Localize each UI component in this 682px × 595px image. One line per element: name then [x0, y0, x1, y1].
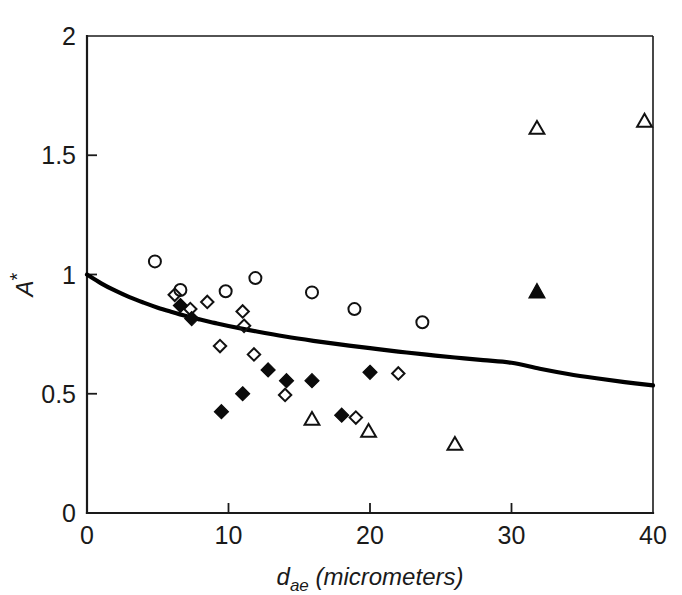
x-tick-label-30: 30 [498, 521, 526, 549]
y-tick-label-0.5: 0.5 [41, 380, 76, 408]
x-tick-label-20: 20 [356, 521, 384, 549]
y-tick-label-0: 0 [62, 499, 76, 527]
x-tick-label-0: 0 [80, 521, 94, 549]
chart-background [0, 0, 682, 595]
y-tick-label-2: 2 [62, 22, 76, 50]
chart-figure: 010203040 00.511.52 dae (micrometers) A* [0, 0, 682, 595]
y-tick-label-1: 1 [62, 261, 76, 289]
scatter-plot-svg: 010203040 00.511.52 dae (micrometers) A* [0, 0, 682, 595]
y-tick-label-1.5: 1.5 [41, 141, 76, 169]
x-tick-label-40: 40 [639, 521, 667, 549]
x-tick-label-10: 10 [215, 521, 243, 549]
